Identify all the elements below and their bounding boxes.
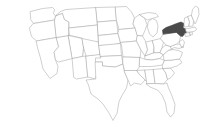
state-north-dakota[interactable] — [96, 7, 117, 22]
state-connecticut[interactable] — [185, 33, 191, 37]
state-minnesota[interactable] — [116, 7, 136, 30]
state-arizona[interactable] — [73, 56, 89, 79]
state-massachusetts[interactable] — [186, 27, 197, 32]
us-states-map — [0, 0, 201, 131]
state-florida[interactable] — [147, 83, 176, 117]
state-michigan-lower[interactable] — [148, 19, 159, 38]
state-iowa[interactable] — [118, 28, 138, 43]
us-map-figure: Map of the United States with New York h… — [0, 0, 201, 131]
state-kansas[interactable] — [99, 44, 122, 57]
state-arkansas[interactable] — [123, 57, 140, 71]
state-south-dakota[interactable] — [98, 21, 119, 36]
